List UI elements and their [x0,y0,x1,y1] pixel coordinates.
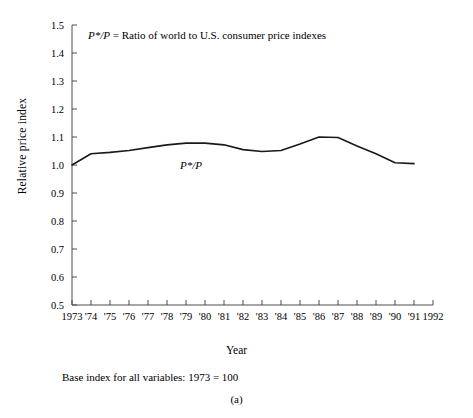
svg-text:1.0: 1.0 [51,160,64,171]
svg-text:1.1: 1.1 [51,132,64,143]
y-axis-tick-labels: 0.50.60.70.80.91.01.11.21.31.41.5 [51,20,65,311]
svg-text:1.5: 1.5 [51,20,64,31]
svg-text:'88: '88 [351,311,363,322]
svg-text:'79: '79 [180,311,192,322]
x-axis-tick-labels: 1973'74'75'76'77'78'79'80'81'82'83'84'85… [62,311,444,322]
panel-identifier: (a) [0,393,473,405]
svg-text:'87: '87 [332,311,344,322]
svg-text:'76: '76 [123,311,135,322]
chart-axes [72,25,433,305]
svg-text:1.2: 1.2 [51,104,64,115]
svg-text:1.3: 1.3 [51,76,64,87]
x-axis-title: Year [0,344,473,356]
svg-text:0.8: 0.8 [51,216,64,227]
svg-text:'84: '84 [275,311,288,322]
y-axis-title: Relative price index [16,51,28,241]
svg-text:'81: '81 [218,311,230,322]
svg-text:1.4: 1.4 [51,48,65,59]
svg-text:'83: '83 [256,311,268,322]
data-series-lines [72,137,414,165]
svg-text:0.9: 0.9 [51,188,64,199]
svg-text:'75: '75 [104,311,116,322]
svg-text:'86: '86 [313,311,325,322]
svg-text:'74: '74 [85,311,98,322]
svg-text:0.5: 0.5 [51,300,64,311]
svg-text:0.6: 0.6 [51,272,64,283]
series-inline-label: P*/P [180,159,202,171]
svg-text:'90: '90 [389,311,401,322]
svg-text:'89: '89 [370,311,382,322]
svg-text:'77: '77 [142,311,154,322]
svg-text:1973: 1973 [62,311,83,322]
figure-panel: 0.50.60.70.80.91.01.11.21.31.41.5 1973'7… [0,0,473,418]
svg-text:'82: '82 [237,311,249,322]
svg-text:'80: '80 [199,311,211,322]
svg-text:'78: '78 [161,311,173,322]
svg-text:1992: 1992 [423,311,444,322]
base-index-note: Base index for all variables: 1973 = 100 [62,371,238,383]
svg-text:'85: '85 [294,311,306,322]
chart-annotation: P*/P = Ratio of world to U.S. consumer p… [88,29,326,41]
x-axis-ticks [72,300,433,305]
svg-text:0.7: 0.7 [51,244,64,255]
svg-text:'91: '91 [408,311,420,322]
